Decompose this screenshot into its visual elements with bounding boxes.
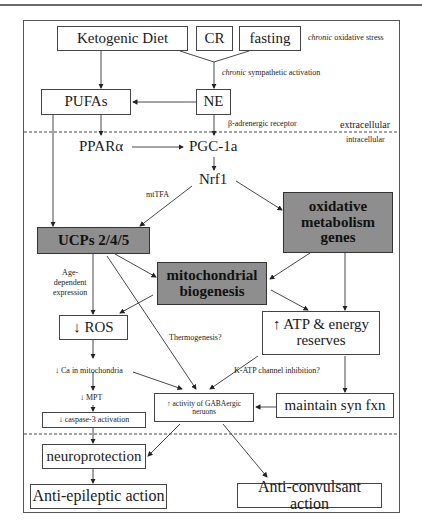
anti-convulsant-box: Anti-convulsant action [237, 483, 382, 508]
intracellular-label: intracellular [346, 135, 385, 144]
oxidative-stress-label: chronic oxidative stress [308, 33, 384, 42]
ucps-box: UCPs 2/4/5 [37, 227, 150, 254]
age-dependent-label: Age- dependent expression [53, 268, 87, 298]
ca-mitochondria-label: ↓ Ca in mitochondria [55, 366, 123, 375]
fasting-box: fasting [239, 26, 301, 51]
anti-epileptic-box: Anti-epileptic action [30, 484, 167, 509]
ne-box: NE [196, 89, 231, 115]
mitochondrial-biogenesis-box: mitochondrial biogenesis [157, 262, 267, 305]
ros-box: ↓ ROS [59, 315, 128, 340]
extracellular-label: extracellular [340, 119, 390, 130]
mpt-label: ↓ MPT [80, 393, 102, 402]
thermogenesis-label: Thermogenesis? [169, 333, 221, 342]
sympathetic-activation-label: chronic sympathetic activation [222, 68, 320, 77]
pufas-box: PUFAs [41, 89, 131, 115]
age-dependent-line-2: dependent [53, 278, 87, 288]
cr-box: CR [196, 26, 233, 51]
katp-channel-label: K-ATP channel inhibition? [234, 366, 320, 375]
atp-energy-box: ↑ ATP & energy reserves [262, 311, 380, 355]
oxidative-metabolism-genes-box: oxidative metabolism genes [283, 192, 393, 253]
beta-adrenergic-label: β-adrenergic receptor [228, 119, 297, 128]
age-dependent-line-3: expression [53, 288, 87, 298]
pgc-1a-node: PGC-1a [189, 138, 237, 155]
age-dependent-line-1: Age- [53, 268, 87, 278]
maintain-syn-fxn-box: maintain syn fxn [276, 393, 394, 418]
ketogenic-diet-box: Ketogenic Diet [57, 26, 188, 51]
ppar-alpha-node: PPARα [79, 138, 123, 155]
gaba-activity-box: ↑ activity of GABAergic neruons [154, 393, 254, 422]
mttfa-label: mtTFA [146, 190, 169, 199]
nrf1-node: Nrf1 [199, 171, 227, 188]
caspase-activation-box: ↓ caspase-3 activation [42, 412, 146, 428]
neuroprotection-box: neuroprotection [42, 444, 146, 469]
